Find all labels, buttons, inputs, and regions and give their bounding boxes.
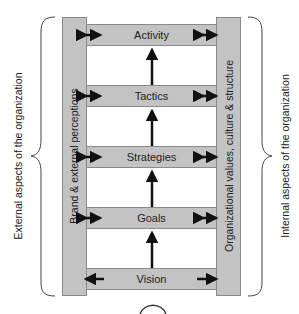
partial-circle-icon <box>140 305 166 314</box>
bidirectional-arrow-icon <box>86 35 100 218</box>
right-brace-icon <box>248 17 272 296</box>
arrows-and-braces <box>0 0 299 314</box>
left-brace-icon <box>31 17 55 296</box>
bidirectional-arrow-icon <box>203 35 216 218</box>
